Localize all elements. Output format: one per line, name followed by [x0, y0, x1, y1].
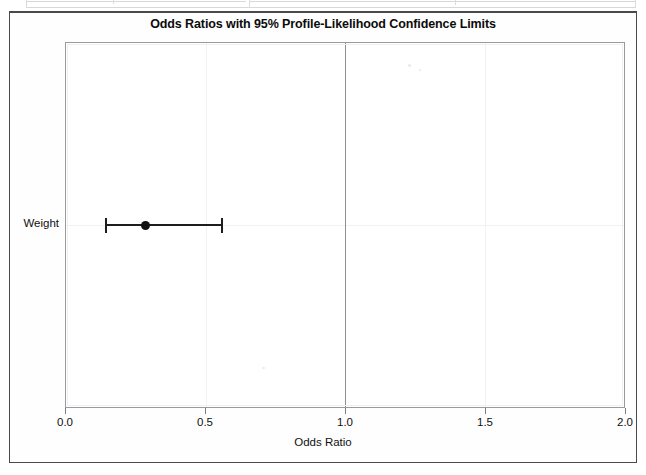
interval-cap-lower	[105, 218, 107, 233]
confidence-interval-weight	[105, 214, 223, 236]
x-axis-tick-label: 2.0	[617, 416, 633, 428]
plot-area	[65, 42, 625, 408]
x-axis-tick-label: 0.0	[57, 416, 73, 428]
x-axis-tick	[625, 408, 626, 414]
x-axis-tick	[205, 408, 206, 414]
point-estimate-marker	[141, 221, 150, 230]
x-axis-title: Odds Ratio	[0, 436, 646, 448]
scan-speckle	[408, 64, 411, 67]
interval-line	[105, 224, 223, 226]
x-axis-tick-label: 0.5	[197, 416, 213, 428]
x-axis-tick-label: 1.0	[337, 416, 353, 428]
x-axis-tick	[65, 408, 66, 414]
scan-artifact-strip	[0, 0, 646, 10]
scan-speckle	[419, 69, 421, 71]
x-axis-tick	[485, 408, 486, 414]
page-title: Odds Ratios with 95% Profile-Likelihood …	[150, 17, 496, 31]
x-axis-tick	[345, 408, 346, 414]
chart-title-box: Odds Ratios with 95% Profile-Likelihood …	[10, 12, 636, 35]
interval-cap-upper	[221, 218, 223, 233]
x-axis-tick-label: 1.5	[477, 416, 493, 428]
y-axis-category-label-weight: Weight	[14, 217, 59, 229]
reference-line-null-effect	[345, 43, 346, 407]
scan-speckle	[262, 367, 265, 369]
